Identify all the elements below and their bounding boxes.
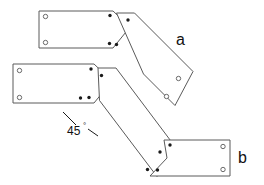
hole-open (176, 76, 180, 80)
hole-open (43, 14, 47, 18)
hole-filled (87, 96, 90, 99)
plate-b-label: b (238, 149, 247, 166)
hole-filled (146, 168, 149, 171)
hole-filled (100, 74, 103, 77)
hole-open (221, 144, 225, 148)
hole-open (164, 94, 168, 98)
plate-top-left (39, 11, 130, 48)
angle-label-value: 45 (67, 124, 81, 138)
plate-a-label: a (176, 31, 185, 48)
hole-open (43, 40, 47, 44)
hole-filled (126, 18, 129, 21)
hole-filled (156, 168, 159, 171)
hole-filled (108, 42, 111, 45)
plate-middle-left-outline (13, 64, 112, 103)
technical-diagram: 45 ° a b (0, 0, 264, 185)
plate-top-left-outline (39, 11, 130, 48)
hole-open (17, 68, 21, 72)
hole-filled (89, 67, 92, 70)
hole-filled (168, 143, 171, 146)
hole-open (221, 167, 225, 171)
hole-filled (158, 150, 161, 153)
angle-label-degree-symbol: ° (83, 121, 86, 130)
plate-middle-left (13, 64, 112, 103)
diagram-canvas: 45 ° a b (0, 0, 264, 185)
angle-leader-lower-line (88, 129, 98, 136)
hole-filled (115, 43, 118, 46)
hole-filled (79, 96, 82, 99)
hole-open (17, 95, 21, 99)
hole-filled (108, 14, 111, 17)
